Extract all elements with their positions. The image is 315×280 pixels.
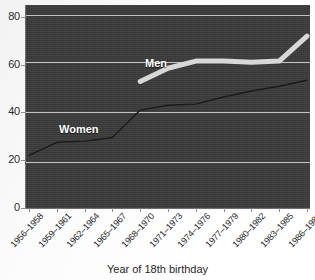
y-tick-mark-80: [21, 17, 26, 18]
series-line-women: [29, 80, 307, 155]
y-tick-mark-40: [21, 112, 26, 113]
series-label-men: Men: [145, 57, 167, 69]
x-tick-mark-0: [29, 208, 30, 212]
x-tick-mark-7: [224, 208, 225, 212]
y-tick-label-0: 0: [0, 201, 20, 213]
x-tick-mark-8: [251, 208, 252, 212]
plot-area: Men Women: [26, 5, 310, 208]
x-tick-mark-6: [196, 208, 197, 212]
x-axis-title: Year of 18th birthday: [0, 263, 315, 275]
y-tick-label-40: 40: [0, 105, 20, 117]
line-chart: Men Women 806040200 1956–19581959–196119…: [0, 0, 315, 280]
series-label-women: Women: [59, 123, 99, 135]
y-tick-label-20: 20: [0, 153, 20, 165]
x-tick-mark-2: [85, 208, 86, 212]
y-tick-label-60: 60: [0, 58, 20, 70]
x-tick-mark-4: [140, 208, 141, 212]
x-tick-mark-9: [279, 208, 280, 212]
y-axis-line: [25, 5, 26, 209]
x-tick-mark-5: [168, 208, 169, 212]
y-tick-mark-60: [21, 65, 26, 66]
series-layer: [26, 5, 310, 208]
x-tick-mark-10: [307, 208, 308, 212]
x-axis-ticks: 1956–19581959–19611962–19641965–19671968…: [26, 209, 310, 261]
x-tick-mark-3: [112, 208, 113, 212]
x-tick-mark-1: [57, 208, 58, 212]
y-tick-label-80: 80: [0, 10, 20, 22]
y-tick-mark-20: [21, 160, 26, 161]
